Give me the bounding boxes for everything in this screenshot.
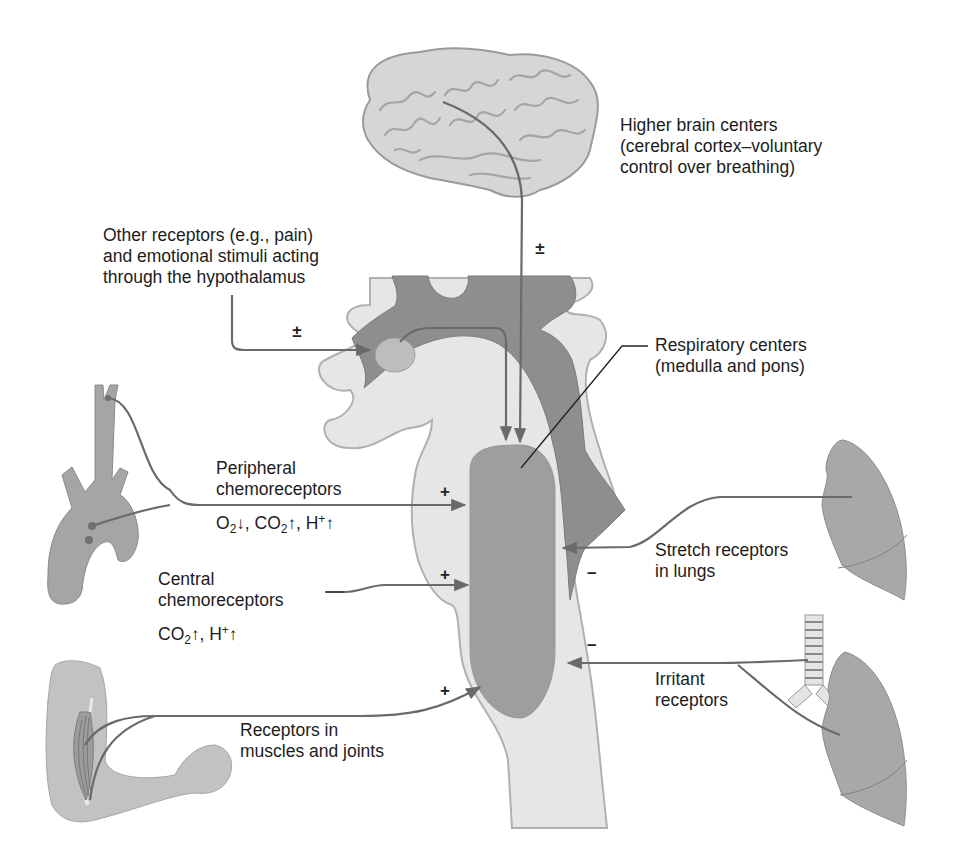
sign-stretch: – (587, 564, 596, 581)
label-hypothalamus-receptors: Other receptors (e.g., pain) and emotion… (103, 225, 319, 288)
label-stretch-receptors: Stretch receptors in lungs (655, 540, 788, 582)
label-respiratory-centers: Respiratory centers (medulla and pons) (655, 335, 807, 377)
irritant-pathway (568, 660, 808, 663)
label-muscle-joint-receptors: Receptors in muscles and joints (240, 720, 384, 762)
sign-muscles-joints: + (440, 682, 450, 699)
arrow-down-icon: ↓ (236, 514, 245, 533)
label-irritant-receptors: Irritant receptors (655, 669, 728, 711)
sign-higher-brain: ± (533, 242, 547, 256)
arrow-up-icon: ↑ (229, 625, 238, 644)
arrow-up-icon: ↑ (325, 514, 334, 533)
label-central-chemoreceptors: Central chemoreceptors (158, 569, 283, 611)
sign-irritant: – (587, 636, 596, 653)
respiratory-center-shape (470, 445, 555, 718)
lung-illustration-upper (822, 440, 907, 600)
central-chemo-stimuli: CO2↑, H+↑ (158, 620, 237, 651)
sign-peripheral: + (440, 483, 450, 500)
sign-central: + (440, 566, 450, 583)
label-peripheral-chemoreceptors: Peripheral chemoreceptors (216, 458, 341, 500)
aorta-carotid-illustration (48, 385, 139, 604)
hypothalamus-nucleus (375, 338, 415, 372)
peripheral-chemo-stimuli: O2↓, CO2↑, H+↑ (216, 509, 334, 540)
label-higher-brain-centers: Higher brain centers (cerebral cortex–vo… (620, 115, 822, 178)
sign-hypothalamus: ± (290, 325, 304, 339)
arrow-up-icon: ↑ (287, 514, 296, 533)
lung-illustration-lower (822, 652, 907, 826)
arm-illustration (46, 661, 232, 822)
